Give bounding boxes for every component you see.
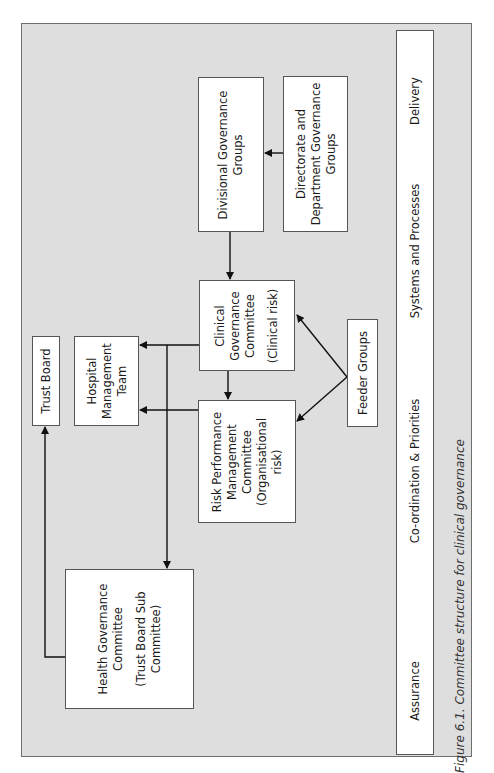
node-health-governance: Health Governance Committee (Trust Board…	[65, 569, 194, 709]
node-divisional-governance: Divisional Governance Groups	[198, 77, 264, 232]
node-directorate-department: Directorate and Department Governance Gr…	[283, 76, 348, 232]
node-feeder-groups: Feeder Groups	[347, 319, 378, 427]
node-hospital-management: Hospital Management Team	[74, 336, 139, 426]
band-label-coordination-priorities: Co-ordination & Priorities	[408, 399, 422, 544]
band-label-delivery: Delivery	[408, 77, 422, 125]
edge-health-to-trust-board	[45, 427, 65, 657]
node-clinical-governance: Clinical Governance Committee (Clinical …	[199, 280, 295, 371]
band-label-systems-processes: Systems and Processes	[408, 184, 422, 319]
node-trust-board: Trust Board	[32, 336, 60, 426]
edge-feeder-to-clinical	[297, 315, 347, 377]
node-risk-performance: Risk Performance Management Committee (O…	[198, 400, 296, 523]
band-label-assurance: Assurance	[408, 661, 422, 721]
figure-caption: Figure 6.1. Committee structure for clin…	[453, 439, 467, 773]
stage-band: Delivery Systems and Processes Co-ordina…	[396, 30, 434, 755]
edge-feeder-to-risk	[297, 377, 347, 421]
